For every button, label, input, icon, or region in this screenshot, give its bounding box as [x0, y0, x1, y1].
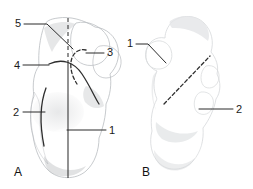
panel-b-bone [146, 16, 220, 171]
label-b1: 1 [127, 37, 133, 49]
label-a5: 5 [15, 17, 21, 29]
bone-a-upper-process [71, 22, 110, 65]
panel-a-bone [30, 17, 121, 177]
label-a3: 3 [107, 46, 113, 58]
bone-b-body-highlight [157, 70, 211, 130]
label-a2: 2 [13, 106, 19, 118]
panel-letter-b: B [142, 165, 150, 179]
label-a1: 1 [109, 124, 115, 136]
leader-b1 [136, 44, 166, 63]
bone-b-top-ridge [170, 16, 209, 41]
figure-canvas: 5 4 3 2 1 A [0, 0, 253, 189]
label-b2: 2 [236, 103, 242, 115]
anatomical-figure: 5 4 3 2 1 A [0, 0, 253, 189]
label-a4: 4 [14, 59, 20, 71]
panel-letter-a: A [14, 165, 22, 179]
